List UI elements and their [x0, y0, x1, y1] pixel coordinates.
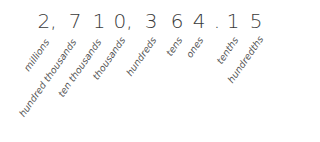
place-value-label: hundreds	[124, 35, 159, 78]
digit: 1	[227, 10, 240, 32]
digit: 2,	[37, 10, 56, 32]
digit: 4	[193, 10, 206, 32]
digit: 6	[171, 10, 184, 32]
digit: 5	[250, 10, 263, 32]
digit: .	[214, 10, 220, 32]
place-value-label: tens	[164, 35, 185, 58]
digit: 3	[145, 10, 158, 32]
digit: 0,	[113, 10, 132, 32]
place-value-label: ones	[184, 35, 206, 60]
digit: 1	[93, 10, 106, 32]
digit: 7	[69, 10, 82, 32]
